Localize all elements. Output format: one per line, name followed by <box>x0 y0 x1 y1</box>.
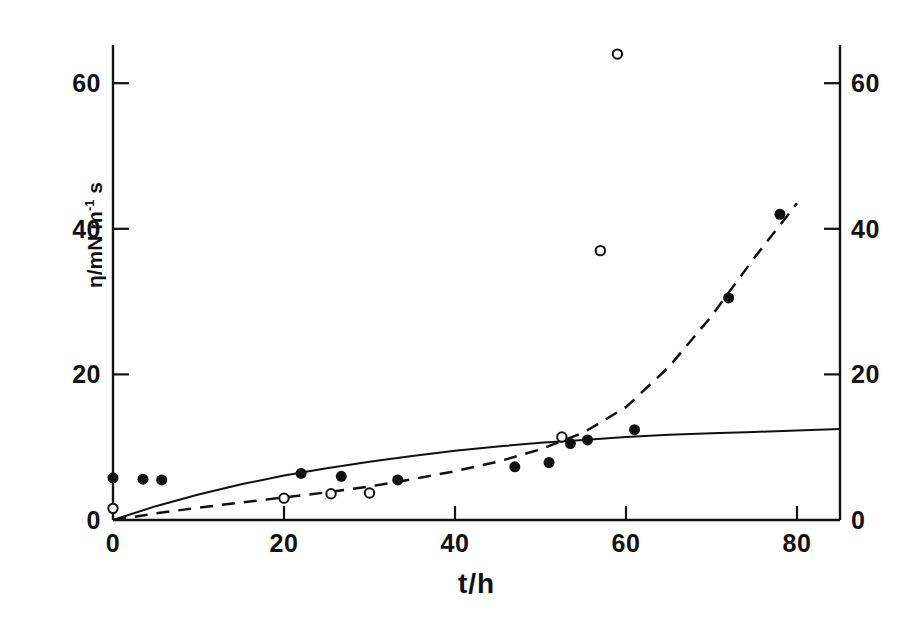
data-point-filled-circle <box>336 471 347 482</box>
data-point-open-circle <box>613 49 622 58</box>
y-axis-unit-tail: s <box>83 182 106 200</box>
data-point-filled-circle <box>723 292 734 303</box>
bottom-tick-label-80: 80 <box>783 529 812 558</box>
left-tick-label-20: 20 <box>72 360 101 389</box>
bottom-tick-label-20: 20 <box>270 529 299 558</box>
y-axis-slash: / <box>83 269 106 275</box>
dashed-curve <box>113 203 797 520</box>
data-point-filled-circle <box>156 474 167 485</box>
data-point-filled-circle <box>544 457 555 468</box>
right-tick-label-60: 60 <box>851 69 880 98</box>
y-axis-title: η/mN m-1 s <box>82 182 107 288</box>
left-tick-label-0: 0 <box>87 506 101 535</box>
bottom-axis-ticks <box>284 506 797 520</box>
data-point-open-circle <box>279 493 288 502</box>
bottom-tick-label-60: 60 <box>612 529 641 558</box>
data-point-open-circle <box>326 489 335 498</box>
scatter-plot-svg <box>0 0 912 617</box>
data-point-open-circle <box>557 432 566 441</box>
data-point-filled-circle <box>509 461 520 472</box>
data-point-filled-circle <box>582 434 593 445</box>
left-tick-label-60: 60 <box>72 69 101 98</box>
data-point-filled-circle <box>392 474 403 485</box>
bottom-tick-label-0: 0 <box>106 529 120 558</box>
left-axis-ticks <box>113 83 129 374</box>
fitted-curves-group <box>113 203 840 520</box>
x-axis-title: t/h <box>458 568 495 600</box>
right-axis-ticks <box>824 83 840 374</box>
figure-canvas: 0204060 0204060 020406080 t/h η/mN m-1 s <box>0 0 912 617</box>
data-point-open-circle <box>108 504 117 513</box>
solid-curve <box>113 429 840 520</box>
data-point-open-circle <box>596 246 605 255</box>
data-point-filled-circle <box>629 424 640 435</box>
y-axis-unit: mN m <box>83 211 106 269</box>
data-point-filled-circle <box>774 209 785 220</box>
y-axis-exponent: -1 <box>82 199 97 211</box>
data-markers-group <box>108 49 786 513</box>
right-tick-label-40: 40 <box>851 214 880 243</box>
y-axis-symbol: η <box>83 275 106 288</box>
data-point-filled-circle <box>296 468 307 479</box>
bottom-tick-label-40: 40 <box>441 529 470 558</box>
data-point-open-circle <box>365 488 374 497</box>
data-point-filled-circle <box>108 472 119 483</box>
right-tick-label-0: 0 <box>851 506 865 535</box>
right-tick-label-20: 20 <box>851 360 880 389</box>
data-point-filled-circle <box>137 474 148 485</box>
